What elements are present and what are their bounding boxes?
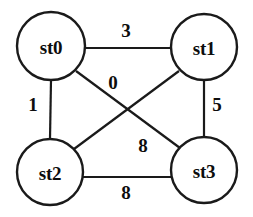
graph-canvas: st0 st1 st2 st3 3 1 5 8 0 8 (0, 0, 253, 217)
node-label-st0: st0 (40, 37, 62, 58)
graph-diagram: st0 st1 st2 st3 3 1 5 8 0 8 (0, 0, 253, 217)
node-label-st2: st2 (39, 163, 61, 184)
edge-weight-st0-st3: 0 (108, 72, 118, 93)
edge-st0-st2 (50, 80, 51, 139)
edge-weight-st0-st2: 1 (28, 94, 38, 115)
edge-weight-st1-st2: 8 (138, 135, 148, 156)
node-label-st3: st3 (193, 161, 215, 182)
edge-weight-st0-st1: 3 (121, 20, 131, 41)
edge-weight-st1-st3: 5 (212, 94, 222, 115)
edge-st1-st2 (74, 71, 179, 149)
edge-weight-st2-st3: 8 (121, 182, 131, 203)
node-label-st1: st1 (193, 38, 215, 59)
